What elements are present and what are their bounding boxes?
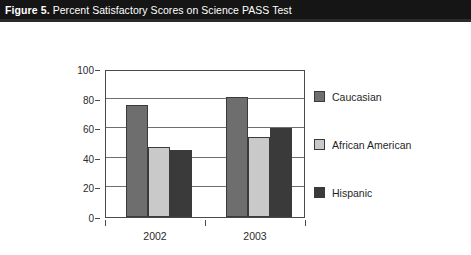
bar-african-american-2003 bbox=[248, 137, 270, 217]
legend-swatch-icon bbox=[314, 91, 325, 102]
y-tick-mark-40 bbox=[95, 159, 100, 160]
x-tick-label-2003: 2003 bbox=[243, 230, 266, 242]
y-axis: 020406080100 bbox=[60, 70, 100, 218]
x-axis: 20022003 bbox=[105, 220, 305, 244]
y-tick-mark-100 bbox=[95, 70, 100, 71]
legend-item-hispanic[interactable]: Hispanic bbox=[314, 178, 464, 207]
y-tick-label-60: 60 bbox=[83, 124, 94, 135]
figure-body: 020406080100 20022003 CaucasianAfrican A… bbox=[0, 22, 471, 255]
bar-hispanic-2003 bbox=[270, 128, 292, 217]
plot-area bbox=[105, 70, 305, 218]
y-tick-label-80: 80 bbox=[83, 94, 94, 105]
figure-caption-bar: Figure 5. Percent Satisfactory Scores on… bbox=[0, 0, 471, 19]
bar-caucasian-2002 bbox=[126, 105, 148, 217]
y-tick-mark-80 bbox=[95, 100, 100, 101]
figure-number: Figure 5. bbox=[5, 4, 50, 16]
legend-label: Hispanic bbox=[332, 187, 372, 199]
y-tick-mark-0 bbox=[95, 218, 100, 219]
x-tick-mark-1 bbox=[205, 220, 206, 226]
bar-african-american-2002 bbox=[148, 147, 170, 217]
y-tick-label-0: 0 bbox=[88, 213, 94, 224]
bar-hispanic-2002 bbox=[170, 150, 192, 217]
y-tick-label-20: 20 bbox=[83, 183, 94, 194]
legend-swatch-icon bbox=[314, 187, 325, 198]
legend-item-caucasian[interactable]: Caucasian bbox=[314, 82, 464, 111]
x-tick-label-2002: 2002 bbox=[143, 230, 166, 242]
y-tick-label-100: 100 bbox=[77, 65, 94, 76]
x-tick-mark-0 bbox=[105, 220, 106, 226]
y-tick-label-40: 40 bbox=[83, 153, 94, 164]
legend-swatch-icon bbox=[314, 139, 325, 150]
y-tick-mark-20 bbox=[95, 188, 100, 189]
bar-caucasian-2003 bbox=[226, 97, 248, 217]
bars-layer bbox=[106, 71, 304, 217]
legend-label: African American bbox=[332, 139, 411, 151]
figure-title: Percent Satisfactory Scores on Science P… bbox=[53, 4, 292, 16]
legend-label: Caucasian bbox=[332, 91, 382, 103]
legend-item-african-american[interactable]: African American bbox=[314, 130, 464, 159]
chart-legend: CaucasianAfrican AmericanHispanic bbox=[314, 82, 464, 226]
y-tick-mark-60 bbox=[95, 129, 100, 130]
x-tick-mark-2 bbox=[305, 220, 306, 226]
